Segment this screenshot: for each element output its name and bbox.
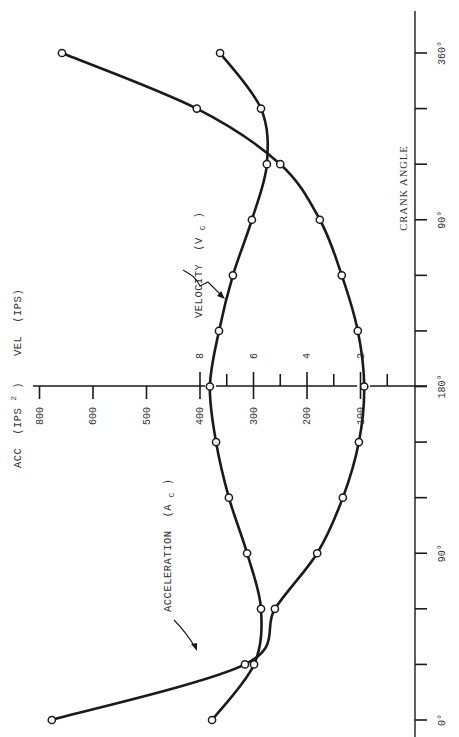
velocity-data-point <box>225 494 232 501</box>
acceleration-data-point <box>354 327 361 334</box>
acceleration-leader-arrow <box>174 620 195 647</box>
acceleration-data-point <box>193 105 200 112</box>
velocity-data-point <box>257 605 264 612</box>
velocity-data-point <box>212 438 219 445</box>
axes: 0°90°180°90°360°800600500400300200100864… <box>33 11 448 737</box>
acc-tick-label: 600 <box>88 407 99 425</box>
acceleration-data-point <box>314 550 321 557</box>
acc-tick-label: 200 <box>302 407 313 425</box>
acc-tick-label: 500 <box>142 407 153 425</box>
velocity-data-point <box>250 661 257 668</box>
crank-angle-tick-label: 90° <box>437 211 448 229</box>
x-axis-title: CRANK ANGLE <box>398 145 409 230</box>
acceleration-data-point <box>316 216 323 223</box>
crank-angle-tick-label: 90° <box>437 544 448 562</box>
acc-tick-label: 400 <box>195 407 206 425</box>
crank-kinematics-chart: 0°90°180°90°360°800600500400300200100864… <box>0 0 459 737</box>
velocity-data-point <box>257 105 264 112</box>
velocity-data-point <box>206 383 213 390</box>
acceleration-data-point <box>48 716 55 723</box>
vel-tick-label: 8 <box>195 353 206 359</box>
acceleration-data-point <box>338 272 345 279</box>
crank-angle-tick-label: 180° <box>437 374 448 398</box>
velocity-data-point <box>248 216 255 223</box>
vel-tick-label: 4 <box>302 353 313 359</box>
vel-tick-label: 6 <box>249 353 260 359</box>
acceleration-data-point <box>271 605 278 612</box>
acceleration-data-point <box>355 438 362 445</box>
acceleration-leader-arrowhead <box>191 643 197 651</box>
labels: ACC (IPS 2 ) VEL (IPS) CRANK ANGLE VELOC… <box>7 145 409 651</box>
crank-angle-tick-label: 0° <box>437 714 448 726</box>
crank-angle-tick-label: 360° <box>437 41 448 65</box>
velocity-data-point <box>215 327 222 334</box>
acceleration-data-point <box>339 494 346 501</box>
vel-axis-title: VEL (IPS) <box>12 289 24 356</box>
acceleration-data-point <box>277 161 284 168</box>
acceleration-data-point <box>58 49 65 56</box>
acceleration-data-point <box>241 661 248 668</box>
velocity-data-point <box>216 49 223 56</box>
acc-axis-title: ACC (IPS 2 ) <box>7 382 24 468</box>
velocity-data-point <box>208 716 215 723</box>
acc-tick-label: 300 <box>249 407 260 425</box>
velocity-data-point <box>263 161 270 168</box>
velocity-label: VELOCITY (V C ) <box>193 212 208 318</box>
acc-tick-label: 800 <box>35 407 46 425</box>
velocity-data-point <box>229 272 236 279</box>
velocity-data-point <box>243 550 250 557</box>
acceleration-data-point <box>361 383 368 390</box>
acceleration-label: ACCELERATION (A C ) <box>162 479 177 613</box>
